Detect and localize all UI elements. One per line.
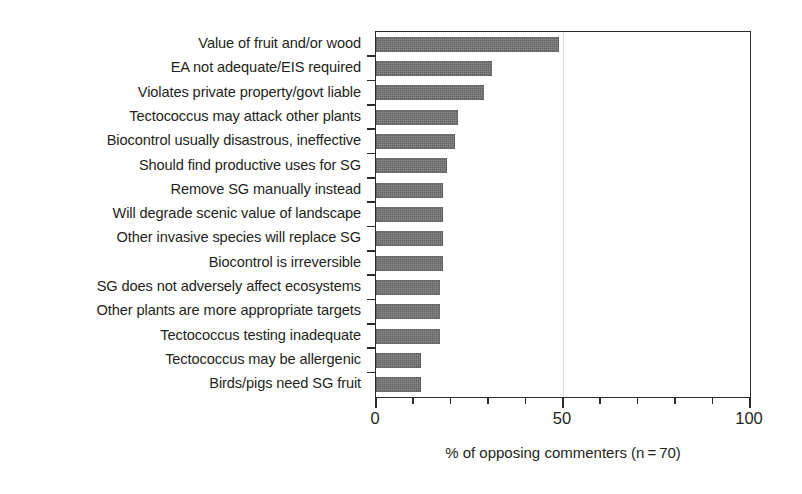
category-label: Will degrade scenic value of landscape <box>8 201 368 225</box>
bar <box>376 158 447 173</box>
bar-chart-figure: Value of fruit and/or woodEA not adequat… <box>0 0 802 494</box>
bar <box>376 61 492 76</box>
bar-row <box>376 32 750 56</box>
x-axis-major-tick <box>562 397 564 408</box>
bar-row <box>376 178 750 202</box>
bar <box>376 110 458 125</box>
bar-series <box>376 32 750 397</box>
bar-row <box>376 81 750 105</box>
plot-area: Reasons citedby opponents <box>375 31 751 398</box>
category-label: Biocontrol usually disastrous, ineffecti… <box>8 128 368 152</box>
bar-row <box>376 373 750 397</box>
x-axis-tick-layer <box>375 397 751 409</box>
category-label: Remove SG manually instead <box>8 177 368 201</box>
x-axis-title: % of opposing commenters (n = 70) <box>375 445 751 460</box>
bar-row <box>376 227 750 251</box>
bar <box>376 85 484 100</box>
category-label: Other plants are more appropriate target… <box>8 299 368 323</box>
bar-row <box>376 105 750 129</box>
category-label: Other invasive species will replace SG <box>8 226 368 250</box>
bar-row <box>376 348 750 372</box>
category-label: Biocontrol is irreversible <box>8 250 368 274</box>
x-axis-minor-tick <box>487 397 489 404</box>
category-label: Violates private property/govt liable <box>8 80 368 104</box>
x-axis-minor-tick <box>637 397 639 404</box>
x-axis-tick-label: 100 <box>735 410 763 427</box>
bar <box>376 134 455 149</box>
bar <box>376 231 443 246</box>
category-label: SG does not adversely affect ecosystems <box>8 274 368 298</box>
x-axis-minor-tick <box>599 397 601 404</box>
x-axis-minor-tick <box>412 397 414 404</box>
bar-row <box>376 202 750 226</box>
category-label: Tectococcus testing inadequate <box>8 323 368 347</box>
bar-row <box>376 275 750 299</box>
bar <box>376 256 443 271</box>
bar <box>376 304 440 319</box>
x-axis-tick-label-layer: 050100 <box>0 410 802 436</box>
bar-row <box>376 300 750 324</box>
x-axis-minor-tick <box>525 397 527 404</box>
x-axis-tick-label: 0 <box>370 410 379 427</box>
bar-row <box>376 251 750 275</box>
bar <box>376 329 440 344</box>
bar <box>376 183 443 198</box>
bar-row <box>376 56 750 80</box>
category-label: Birds/pigs need SG fruit <box>8 372 368 396</box>
bar <box>376 377 421 392</box>
bar-row <box>376 324 750 348</box>
bar <box>376 280 440 295</box>
category-label: Should find productive uses for SG <box>8 153 368 177</box>
category-label-column: Value of fruit and/or woodEA not adequat… <box>8 31 368 396</box>
bar <box>376 207 443 222</box>
bar <box>376 353 421 368</box>
bar <box>376 37 559 52</box>
x-axis-tick-label: 50 <box>553 410 571 427</box>
x-axis-minor-tick <box>712 397 714 404</box>
x-axis-major-tick <box>375 397 377 408</box>
x-axis-minor-tick <box>674 397 676 404</box>
x-axis-minor-tick <box>450 397 452 404</box>
category-label: Tectococcus may attack other plants <box>8 104 368 128</box>
category-label: EA not adequate/EIS required <box>8 55 368 79</box>
x-axis-major-tick <box>749 397 751 408</box>
category-label: Value of fruit and/or wood <box>8 31 368 55</box>
bar-row <box>376 154 750 178</box>
bar-row <box>376 129 750 153</box>
category-label: Tectococcus may be allergenic <box>8 347 368 371</box>
